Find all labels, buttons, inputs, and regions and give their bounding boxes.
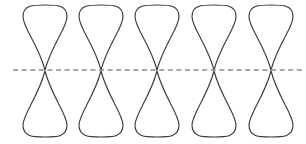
top-teardrop-2	[79, 5, 123, 70]
bottom-teardrop-2	[79, 71, 123, 137]
top-teardrop-1	[23, 5, 67, 70]
top-row-group	[23, 5, 293, 70]
figure-canvas	[0, 0, 306, 144]
top-teardrop-5	[249, 5, 293, 70]
bottom-row-group	[23, 71, 293, 137]
bottom-teardrop-3	[135, 71, 179, 137]
mirrored-teardrops-figure	[0, 0, 306, 144]
top-teardrop-3	[135, 5, 179, 70]
top-teardrop-4	[192, 5, 236, 70]
bottom-teardrop-4	[192, 71, 236, 137]
bottom-teardrop-5	[249, 71, 293, 137]
bottom-teardrop-1	[23, 71, 67, 137]
